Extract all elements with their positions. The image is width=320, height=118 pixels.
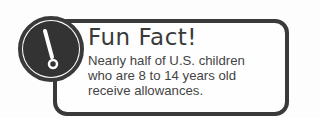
callout-line: who are 8 to 14 years old	[88, 68, 278, 83]
callout-line: Nearly half of U.S. children	[88, 53, 278, 68]
callout-line: receive allowances.	[88, 83, 278, 98]
callout-body: Nearly half of U.S. children who are 8 t…	[88, 53, 278, 98]
callout-title: Fun Fact!	[88, 24, 197, 50]
exclamation-icon	[23, 21, 79, 77]
